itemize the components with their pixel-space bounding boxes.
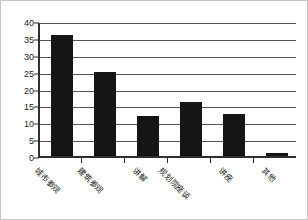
x-tick-label: 讲座 [217, 166, 235, 184]
y-tick-label: 25 [24, 69, 34, 78]
bar [51, 35, 73, 157]
x-tick-label: 讲解 [131, 166, 149, 184]
x-tick-label: 城市参观 [33, 166, 63, 196]
y-tick-label: 20 [24, 86, 34, 95]
x-tick-label: 建筑参观 [76, 166, 106, 196]
bar [180, 102, 202, 156]
x-tick-mark [167, 158, 168, 163]
bar [94, 72, 116, 156]
x-tick-mark [124, 158, 125, 163]
x-tick-label: 其他 [260, 166, 278, 184]
x-tick-label: 规划院座谈 [156, 166, 191, 201]
y-tick-label: 35 [24, 35, 34, 44]
y-axis: 0510152025303540 [1, 23, 34, 158]
bar-chart-figure: 0510152025303540 城市参观建筑参观讲解规划院座谈讲座其他 [0, 0, 308, 220]
x-tick-mark [210, 158, 211, 163]
bar [223, 114, 245, 156]
bars-layer [40, 23, 296, 156]
x-tick-mark [253, 158, 254, 163]
plot-area [38, 23, 296, 158]
bar [266, 153, 288, 156]
bar [137, 116, 159, 157]
y-tick-label: 15 [24, 103, 34, 112]
y-tick-label: 10 [24, 120, 34, 129]
x-tick-mark [81, 158, 82, 163]
y-tick-label: 40 [24, 19, 34, 28]
x-axis-labels: 城市参观建筑参观讲解规划院座谈讲座其他 [38, 164, 296, 216]
y-tick-label: 30 [24, 52, 34, 61]
